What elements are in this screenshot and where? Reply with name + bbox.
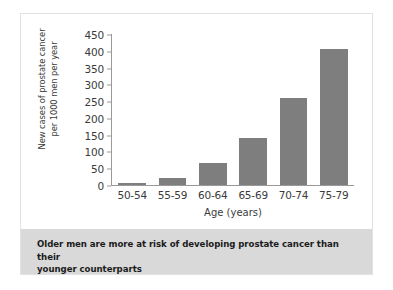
bar [239, 138, 266, 185]
y-tick-mark [107, 102, 111, 103]
figure-container: New cases of prostate cancer per 1000 me… [20, 13, 373, 275]
y-tick-mark [107, 51, 111, 52]
bar-slot [112, 34, 152, 185]
x-tick-label: 70-74 [273, 189, 313, 201]
caption-line2: younger counterparts [37, 263, 356, 276]
y-tick-mark [107, 169, 111, 170]
x-axis-title: Age (years) [112, 207, 354, 218]
x-tick-label: 50-54 [112, 189, 152, 201]
x-axis-line [111, 185, 354, 186]
y-tick-mark [107, 152, 111, 153]
y-tick-mark [107, 68, 111, 69]
plot-area: 050100150200250300350400450 [111, 34, 338, 186]
x-tick-label: 75-79 [314, 189, 354, 201]
caption-band: Older men are more at risk of developing… [21, 229, 372, 274]
y-tick-mark [107, 135, 111, 136]
y-tick-mark [107, 35, 111, 36]
y-axis-title: New cases of prostate cancer per 1000 me… [37, 14, 67, 164]
bar-slot [273, 34, 313, 185]
y-tick-mark [107, 118, 111, 119]
y-tick-mark [107, 85, 111, 86]
x-tick-label: 60-64 [193, 189, 233, 201]
x-tick-label: 65-69 [233, 189, 273, 201]
bar [199, 163, 226, 185]
bar-slot [152, 34, 192, 185]
bar-slot [233, 34, 273, 185]
y-axis-title-line2: per 1000 men per year [49, 14, 61, 164]
x-tick-label: 55-59 [152, 189, 192, 201]
y-tick-mark [107, 186, 111, 187]
bar [320, 49, 347, 185]
bar-slot [193, 34, 233, 185]
bar-series [112, 34, 354, 185]
x-axis-ticks: 50-5455-5960-6465-6970-7475-79 [112, 189, 354, 201]
chart-panel: New cases of prostate cancer per 1000 me… [21, 14, 372, 229]
bar [280, 98, 307, 185]
bar-slot [314, 34, 354, 185]
y-axis-title-line1: New cases of prostate cancer [37, 14, 49, 164]
bar [159, 178, 186, 185]
bar [118, 183, 145, 185]
caption-line1: Older men are more at risk of developing… [37, 238, 356, 263]
